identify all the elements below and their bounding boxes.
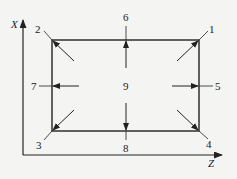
arrow-icon bbox=[177, 110, 198, 130]
point-label-7: 7 bbox=[31, 80, 37, 92]
point-label-8: 8 bbox=[123, 142, 129, 154]
point-label-6: 6 bbox=[123, 11, 129, 23]
arrow-icon bbox=[53, 110, 74, 130]
horizontal-axis-label: Z bbox=[208, 157, 215, 169]
arrow-icon bbox=[53, 41, 74, 61]
coordinate-diagram: X Z 1 bbox=[0, 0, 237, 179]
point-label-5: 5 bbox=[215, 80, 221, 92]
arrow-icon bbox=[177, 41, 198, 61]
point-label-9: 9 bbox=[123, 80, 129, 92]
point-label-3: 3 bbox=[36, 139, 42, 151]
vertical-axis-label: X bbox=[10, 18, 19, 30]
point-label-1: 1 bbox=[209, 23, 215, 35]
point-label-4: 4 bbox=[206, 138, 212, 150]
point-label-2: 2 bbox=[35, 23, 41, 35]
